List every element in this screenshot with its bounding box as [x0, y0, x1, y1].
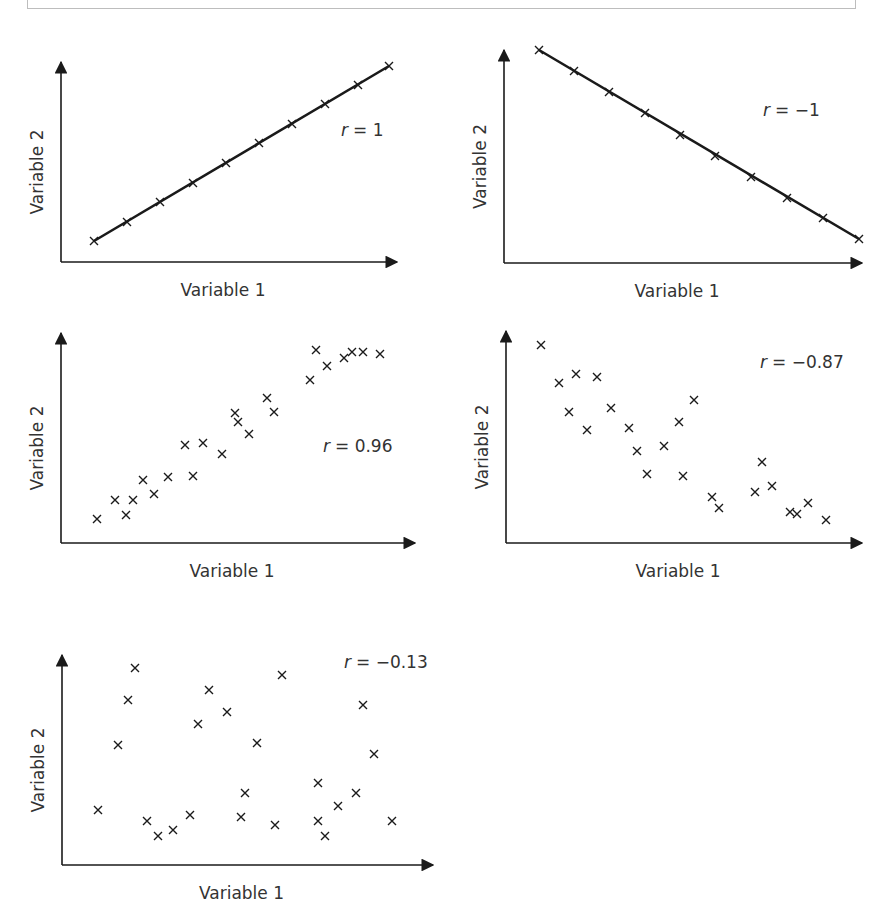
data-point-x-marker — [855, 235, 863, 243]
data-point-x-marker — [154, 832, 162, 840]
data-point-x-marker — [804, 499, 812, 507]
data-point-x-marker — [660, 442, 668, 450]
data-point-x-marker — [131, 664, 139, 672]
x-axis-label: Variable 1 — [635, 561, 720, 581]
data-point-x-marker — [111, 496, 119, 504]
data-point-x-marker — [223, 708, 231, 716]
data-point-x-marker — [690, 396, 698, 404]
data-point-x-marker — [237, 813, 245, 821]
data-point-x-marker — [359, 348, 367, 356]
data-point-x-marker — [758, 458, 766, 466]
scatter-chart-2: Variable 1 Variable 2 r= −1 — [470, 46, 863, 301]
data-point-x-marker — [94, 806, 102, 814]
data-point-x-marker — [751, 488, 759, 496]
data-point-x-marker — [572, 370, 580, 378]
data-point-x-marker — [323, 362, 331, 370]
r-value: = −0.87 — [772, 352, 844, 372]
data-point-x-marker — [321, 100, 329, 108]
data-point-x-marker — [565, 408, 573, 416]
x-axis-label: Variable 1 — [634, 281, 719, 301]
perfect-positive-line — [94, 66, 389, 241]
r-value: = −0.13 — [356, 652, 428, 672]
data-point-x-marker — [164, 473, 172, 481]
y-axis-label: Variable 2 — [470, 124, 490, 209]
r-symbol: r — [344, 652, 352, 672]
data-point-x-marker — [234, 418, 242, 426]
correlation-label: r= 1 — [341, 120, 383, 140]
data-point-x-marker — [679, 472, 687, 480]
data-point-x-marker — [129, 496, 137, 504]
data-point-x-marker — [643, 470, 651, 478]
data-point-x-marker — [334, 802, 342, 810]
y-axis-label: Variable 2 — [28, 727, 48, 812]
data-points — [94, 664, 396, 840]
r-symbol: r — [760, 352, 768, 372]
r-symbol: r — [763, 100, 771, 120]
data-point-x-marker — [537, 341, 545, 349]
data-point-x-marker — [122, 511, 130, 519]
r-value: = 1 — [353, 120, 383, 140]
x-axis-label: Variable 1 — [180, 280, 265, 300]
correlation-label: r= 0.96 — [323, 436, 393, 456]
x-axis-label: Variable 1 — [199, 883, 284, 903]
data-point-x-marker — [370, 750, 378, 758]
data-point-x-marker — [535, 46, 543, 54]
data-point-x-marker — [352, 789, 360, 797]
data-point-x-marker — [245, 430, 253, 438]
r-value: = −1 — [775, 100, 820, 120]
data-point-x-marker — [241, 789, 249, 797]
data-point-x-marker — [607, 404, 615, 412]
data-points — [93, 346, 384, 523]
r-symbol: r — [341, 120, 349, 140]
scatter-chart-4: Variable 1 Variable 2 r= −0.87 — [472, 331, 862, 581]
data-point-x-marker — [348, 348, 356, 356]
data-point-x-marker — [205, 686, 213, 694]
data-point-x-marker — [376, 350, 384, 358]
data-point-x-marker — [93, 515, 101, 523]
y-axis-label: Variable 2 — [472, 404, 492, 489]
data-point-x-marker — [306, 376, 314, 384]
data-point-x-marker — [199, 439, 207, 447]
scatter-chart-3: Variable 1 Variable 2 r= 0.96 — [27, 333, 415, 581]
data-point-x-marker — [263, 394, 271, 402]
r-value: = 0.96 — [335, 436, 393, 456]
data-point-x-marker — [625, 424, 633, 432]
data-point-x-marker — [715, 504, 723, 512]
y-axis-label: Variable 2 — [27, 129, 47, 214]
x-axis-label: Variable 1 — [189, 561, 274, 581]
scatter-chart-1: Variable 1 Variable 2 r= 1 — [27, 62, 397, 300]
data-point-x-marker — [593, 373, 601, 381]
data-point-x-marker — [675, 418, 683, 426]
data-point-x-marker — [139, 476, 147, 484]
data-point-x-marker — [218, 450, 226, 458]
data-point-x-marker — [708, 493, 716, 501]
data-point-x-marker — [793, 510, 801, 518]
data-point-x-marker — [388, 817, 396, 825]
data-point-x-marker — [555, 379, 563, 387]
data-point-x-marker — [114, 741, 122, 749]
data-point-x-marker — [340, 354, 348, 362]
data-point-x-marker — [90, 237, 98, 245]
data-point-x-marker — [768, 482, 776, 490]
correlation-label: r= −0.87 — [760, 352, 844, 372]
data-point-x-marker — [143, 817, 151, 825]
correlation-label: r= −1 — [763, 100, 820, 120]
data-point-x-marker — [194, 720, 202, 728]
y-axis-label: Variable 2 — [27, 405, 47, 490]
data-point-x-marker — [278, 671, 286, 679]
data-point-x-marker — [186, 811, 194, 819]
data-point-x-marker — [312, 346, 320, 354]
data-point-x-marker — [270, 408, 278, 416]
data-point-x-marker — [169, 826, 177, 834]
data-point-x-marker — [385, 62, 393, 70]
data-point-x-marker — [321, 832, 329, 840]
correlation-label: r= −0.13 — [344, 652, 428, 672]
correlation-figure: Variable 1 Variable 2 r= 1 Variable 1 Va… — [0, 0, 885, 905]
data-point-x-marker — [314, 817, 322, 825]
data-point-x-marker — [150, 490, 158, 498]
data-point-x-marker — [189, 472, 197, 480]
data-point-x-marker — [231, 409, 239, 417]
data-point-x-marker — [314, 779, 322, 787]
data-point-x-marker — [786, 508, 794, 516]
data-point-x-marker — [253, 739, 261, 747]
